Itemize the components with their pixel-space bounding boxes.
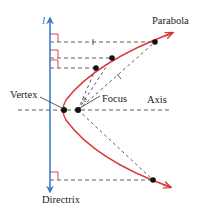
directrix-label: Directrix xyxy=(42,194,81,205)
parabola-point-2 xyxy=(109,55,115,61)
vertex-label: Vertex xyxy=(10,89,38,100)
vertex-pointer xyxy=(40,97,62,108)
focus-label: Focus xyxy=(102,93,127,104)
parabola-point-3 xyxy=(93,65,99,71)
focus-distance-lines xyxy=(78,42,155,180)
right-angle-markers xyxy=(50,34,58,180)
axis-label: Axis xyxy=(147,94,167,105)
focus-point xyxy=(75,107,81,113)
vertex-point xyxy=(61,107,67,113)
parabola-point-1 xyxy=(152,39,158,45)
parabola-diagram: l Parabola Focus Axis Vertex Directrix xyxy=(0,0,200,215)
parabola-arrow-top xyxy=(165,33,172,36)
parabola-point-4 xyxy=(150,177,156,183)
parabola-arrow-bottom xyxy=(163,185,170,188)
points xyxy=(61,39,158,183)
directrix-symbol-label: l xyxy=(42,14,45,26)
parabola-label: Parabola xyxy=(152,15,189,26)
